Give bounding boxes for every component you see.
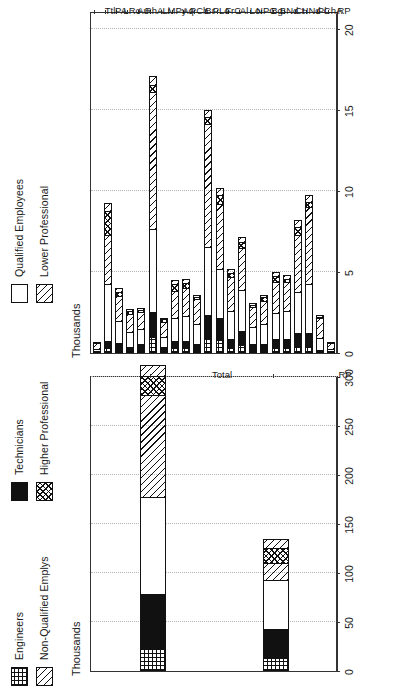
bar-segment: [263, 629, 289, 659]
axis-tick-label: 150: [343, 505, 355, 545]
bar-segment: [93, 342, 101, 344]
legend-swatch-engineers-icon: [11, 667, 28, 686]
bar-segment: [171, 284, 179, 292]
bar-segment: [160, 337, 168, 348]
bar-stack: [93, 343, 101, 353]
axis-tick-label: 200: [343, 456, 355, 496]
bar-stack: [238, 238, 246, 353]
bar-segment: [263, 539, 289, 549]
right-chart-axis-title: Thousands: [70, 304, 82, 358]
bar-stack: [115, 289, 123, 353]
bar-segment: [305, 333, 313, 348]
bar-segment: [149, 337, 157, 353]
legend-entry-engineers: Engineers: [8, 612, 30, 686]
axis-tick-label: 5: [343, 253, 355, 293]
bar-segment: [238, 248, 246, 292]
legend-swatch-higher-professional-icon: [36, 482, 53, 501]
legend-entry-lower-professional: Lower Professional: [33, 186, 55, 303]
legend-entry-technicians: Technicians: [8, 419, 30, 501]
category-axis-line: [336, 378, 337, 672]
bar-segment: [204, 117, 212, 125]
bar-stack: [272, 273, 280, 353]
bar-segment: [171, 291, 179, 319]
bar-segment: [126, 314, 134, 333]
category-axis-line: [336, 14, 337, 354]
bar-segment: [316, 338, 324, 351]
bar-segment: [283, 339, 291, 349]
bar-segment: [115, 321, 123, 344]
bar-segment: [216, 188, 224, 196]
bar-segment: [263, 580, 289, 630]
bar-segment: [149, 76, 157, 86]
bar-segment: [316, 318, 324, 339]
bar-stack: [171, 281, 179, 353]
bar-segment: [126, 332, 134, 348]
bar-segment: [272, 313, 280, 341]
bar-segment: [294, 220, 302, 228]
bar-segment: [238, 331, 246, 346]
bar-segment: [204, 315, 212, 339]
bar-segment: [104, 284, 112, 342]
bar-segment: [283, 275, 291, 280]
bar-segment: [171, 280, 179, 285]
legend-column-3: Qualified Employees Lower Professional: [6, 123, 58, 303]
bar-segment: [193, 299, 201, 325]
category-tick-mark: [150, 374, 151, 378]
bar-segment: [216, 318, 224, 341]
category-label: RP: [274, 369, 407, 380]
bar-segment: [260, 295, 268, 298]
bar-segment: [160, 322, 168, 338]
bar-segment: [316, 315, 324, 318]
bar-stack: [216, 189, 224, 353]
bar-segment: [204, 110, 212, 118]
bar-stack: [327, 343, 335, 353]
bar-stack: [160, 319, 168, 353]
bar-stack: [283, 276, 291, 353]
bar-segment: [272, 282, 280, 314]
gridline: [91, 28, 337, 29]
axis-tick-label: 0: [343, 652, 355, 692]
bar-stack: [204, 111, 212, 353]
bar-segment: [249, 303, 257, 306]
bar-segment: [305, 195, 313, 203]
axis-tick-label: 50: [343, 603, 355, 643]
chart-legend: Engineers Non-Qualified Emplys Technicia…: [6, 86, 58, 686]
bar-segment: [182, 288, 190, 317]
legend-label-qualified-employees: Qualified Employees: [13, 179, 25, 277]
bar-segment: [137, 329, 145, 345]
bar-stack: [260, 296, 268, 353]
bar-segment: [193, 295, 201, 298]
bar-segment: [249, 307, 257, 328]
legend-entry-higher-professional: Higher Professional: [33, 381, 55, 501]
legend-swatch-technicians-icon: [11, 482, 28, 501]
bar-stack: [149, 77, 157, 353]
bar-segment: [294, 333, 302, 348]
legend-label-technicians: Technicians: [13, 419, 25, 475]
legend-swatch-qualified-employees-icon: [11, 284, 28, 303]
axis-tick-label: 0: [343, 334, 355, 374]
bar-segment: [227, 277, 235, 313]
bar-stack: [294, 221, 302, 353]
bar-segment: [149, 92, 157, 230]
bar-segment: [204, 247, 212, 317]
bar-segment: [227, 311, 235, 340]
axis-tick-label: 10: [343, 172, 355, 212]
bar-stack: [249, 304, 257, 353]
right-chart-plot-area: [90, 12, 338, 354]
bar-segment: [263, 548, 289, 565]
bar-stack: [263, 540, 289, 671]
gridline: [91, 474, 337, 475]
bar-segment: [140, 395, 166, 498]
gridline: [91, 425, 337, 426]
bar-segment: [115, 296, 123, 322]
bar-segment: [283, 282, 291, 313]
bar-stack: [305, 196, 313, 353]
legend-column-2: Technicians Higher Professional: [6, 321, 58, 501]
axis-tick-label: 15: [343, 91, 355, 131]
legend-label-lower-professional: Lower Professional: [38, 186, 50, 277]
gridline: [91, 572, 337, 573]
bar-segment: [126, 309, 134, 312]
legend-label-engineers: Engineers: [13, 612, 25, 660]
bar-segment: [171, 318, 179, 342]
bar-segment: [115, 288, 123, 293]
